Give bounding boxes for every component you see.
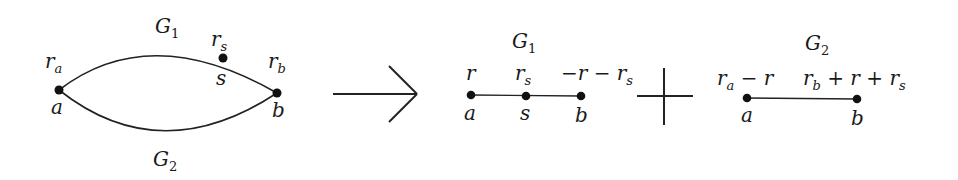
g2-weight-a: ra − r <box>717 66 775 93</box>
weight-ra: ra <box>45 49 62 76</box>
node-b <box>273 89 282 98</box>
edge-g1-upper <box>59 56 277 93</box>
g2-node-b <box>853 95 862 104</box>
g1-weight-s: rs <box>515 61 532 88</box>
node-s-label: s <box>216 66 226 90</box>
g1-node-s <box>522 92 531 101</box>
g1-node-a-label: a <box>464 101 476 125</box>
g2-edge <box>747 98 857 99</box>
node-a <box>55 86 64 95</box>
g1-node-b <box>577 92 586 101</box>
g2-path-graph: G2 ra − r a rb + r + rs b <box>717 31 906 130</box>
left-graph: G1 G2 ra a rs s rb b <box>45 14 286 174</box>
weight-rb: rb <box>268 49 286 76</box>
g1-node-b-label: b <box>575 103 588 127</box>
label-g1: G1 <box>155 14 179 41</box>
edge-g2-lower <box>59 90 277 131</box>
g2-title: G2 <box>805 31 829 58</box>
node-s <box>219 54 228 63</box>
g2-node-b-label: b <box>851 106 864 130</box>
g1-weight-a: r <box>466 61 477 85</box>
g1-node-s-label: s <box>520 101 530 125</box>
weight-rs: rs <box>211 27 228 54</box>
g2-weight-b: rb + r + rs <box>803 66 906 93</box>
node-a-label: a <box>51 95 63 119</box>
label-g2: G2 <box>153 147 177 174</box>
g2-node-a-label: a <box>741 103 753 127</box>
plus-icon <box>637 68 693 125</box>
g1-title: G1 <box>512 29 536 56</box>
node-b-label: b <box>272 98 285 122</box>
g1-weight-b: −r − rs <box>561 61 633 88</box>
right-arrow-icon <box>333 66 417 122</box>
g1-node-a <box>467 91 476 100</box>
g2-node-a <box>743 94 752 103</box>
g1-path-graph: G1 r a rs s −r − rs b <box>464 29 633 127</box>
